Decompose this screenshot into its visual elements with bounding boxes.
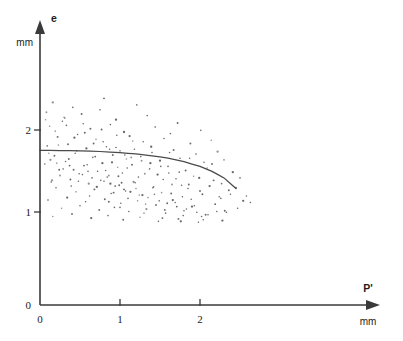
scatter-point [64, 117, 66, 119]
scatter-point [47, 199, 49, 201]
scatter-point [137, 200, 139, 202]
scatter-point [242, 200, 244, 202]
scatter-point [239, 177, 241, 179]
scatter-point [203, 162, 205, 164]
scatter-point [149, 162, 151, 164]
scatter-point [58, 169, 60, 171]
scatter-point [105, 170, 107, 172]
scatter-point [117, 175, 119, 177]
scatter-point [218, 196, 220, 198]
scatter-point [56, 162, 58, 164]
scatter-point [161, 192, 163, 194]
scatter-point [216, 151, 218, 153]
scatter-point [196, 212, 198, 214]
scatter-point [176, 206, 178, 208]
scatter-point [101, 129, 103, 131]
scatter-point [183, 210, 185, 212]
scatter-point [181, 184, 183, 186]
scatter-point [116, 134, 118, 136]
scatter-point [70, 185, 72, 187]
scatter-point [182, 196, 184, 198]
scatter-point [228, 189, 230, 191]
scatter-point [66, 196, 68, 198]
scatter-point [152, 187, 154, 189]
scatter-point [131, 164, 133, 166]
scatter-point [83, 165, 85, 167]
scatter-point [182, 215, 184, 217]
scatter-point [110, 124, 112, 126]
scatter-point [62, 121, 64, 123]
scatter-point [189, 157, 191, 159]
scatter-point [132, 181, 134, 183]
scatter-point [128, 211, 130, 213]
scatter-point [201, 193, 203, 195]
scatter-point [230, 194, 232, 196]
x-axis-arrowhead [366, 300, 380, 310]
scatter-point [144, 173, 146, 175]
scatter-point [119, 207, 121, 209]
scatter-point [123, 131, 125, 133]
scatter-point [180, 220, 182, 222]
scatter-point [158, 200, 160, 202]
scatter-point [199, 190, 201, 192]
scatter-point [114, 185, 116, 187]
scatter-point [154, 194, 156, 196]
scatter-point [155, 204, 157, 206]
scatter-point [202, 219, 204, 221]
scatter-point [115, 147, 117, 149]
y-axis-name-label: e [51, 12, 57, 24]
scatter-point [108, 174, 110, 176]
scatter-point [145, 208, 147, 210]
scatter-point [135, 188, 137, 190]
scatter-point [169, 152, 171, 154]
scatter-point [141, 194, 143, 196]
scatter-point [44, 163, 46, 165]
scatter-point [118, 184, 120, 186]
scatter-point [161, 217, 163, 219]
scatter-point [128, 135, 130, 137]
scatter-point [49, 159, 51, 161]
scatter-point [177, 218, 179, 220]
scatter-point [173, 149, 175, 151]
scatter-point [190, 198, 192, 200]
scatter-point [59, 174, 61, 176]
scatter-point [172, 199, 174, 201]
scatter-point [140, 156, 142, 158]
plot-canvas: 2 1 0 0 1 2 e mm P' mm [0, 0, 403, 341]
y-tick-label-0: 0 [26, 299, 32, 311]
scatter-point [250, 202, 252, 204]
scatter-point [159, 160, 161, 162]
scatter-point [54, 130, 56, 132]
scatter-point [136, 104, 138, 106]
scatter-point [151, 152, 153, 154]
scatter-point [117, 166, 119, 168]
scatter-point [126, 158, 128, 160]
scatter-point [138, 176, 140, 178]
scatter-point [71, 213, 73, 215]
x-tick-label-1: 1 [117, 313, 123, 325]
scatter-point [162, 179, 164, 181]
scatter-point [179, 157, 181, 159]
scatter-point [46, 145, 48, 147]
scatter-point [86, 164, 88, 166]
scatter-point [84, 132, 86, 134]
scatter-point [127, 198, 129, 200]
scatter-point [198, 177, 200, 179]
scatter-point [170, 133, 172, 135]
scatter-point [102, 141, 104, 143]
scatter-point [237, 207, 239, 209]
scatter-point [77, 134, 79, 136]
scatter-point [175, 178, 177, 180]
x-tick-label-2: 2 [197, 313, 203, 325]
scatter-point [99, 109, 101, 111]
scatter-point [93, 188, 95, 190]
scatter-point [186, 208, 188, 210]
scatter-point [78, 180, 80, 182]
scatter-point [130, 156, 132, 158]
scatter-point [57, 136, 59, 138]
scatter-point [61, 207, 63, 209]
scatter-point [104, 198, 106, 200]
scatter-point [198, 221, 200, 223]
scatter-point [138, 194, 140, 196]
scatter-point [194, 205, 196, 207]
